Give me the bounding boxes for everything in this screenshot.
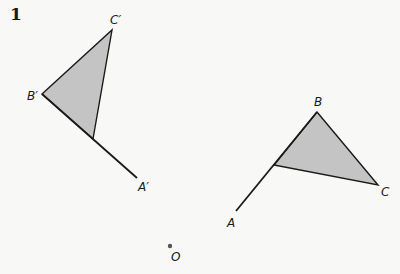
label-a: A	[226, 216, 235, 230]
label-c: C	[381, 185, 390, 199]
label-b: B	[314, 95, 322, 109]
rotation-diagram: C′ B′ A′ B C A O	[0, 0, 400, 274]
original-triangle	[274, 112, 378, 185]
image-figure: C′ B′ A′	[27, 13, 149, 194]
label-o: O	[171, 250, 180, 264]
original-figure: B C A	[226, 95, 390, 230]
image-triangle	[42, 30, 112, 139]
label-b-prime: B′	[27, 89, 38, 103]
center-point: O	[168, 244, 181, 264]
center-dot	[168, 244, 172, 248]
label-a-prime: A′	[137, 180, 149, 194]
label-c-prime: C′	[110, 13, 121, 27]
